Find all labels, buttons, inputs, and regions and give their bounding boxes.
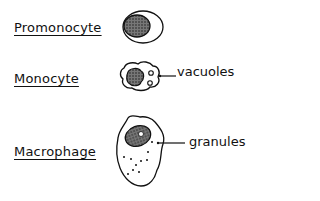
promonocyte-cell xyxy=(123,11,163,43)
macrophage-cell xyxy=(117,116,185,186)
vacuole xyxy=(149,71,154,76)
vacuole xyxy=(148,81,153,86)
monocyte-cell xyxy=(120,62,176,91)
